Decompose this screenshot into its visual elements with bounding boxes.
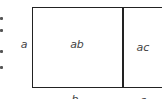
side-label-a: a: [21, 38, 28, 51]
cell-label-ab: ab: [70, 38, 84, 51]
clipped-text-fragment: [0, 50, 3, 53]
area-model-divider: [122, 7, 124, 88]
bottom-label-c: c: [140, 94, 146, 100]
clipped-text-fragment: [0, 17, 3, 20]
bottom-label-b: b: [72, 93, 79, 100]
clipped-text-fragment: [0, 66, 3, 69]
clipped-text-fragment: [0, 29, 3, 32]
cell-label-ac: ac: [137, 41, 150, 54]
